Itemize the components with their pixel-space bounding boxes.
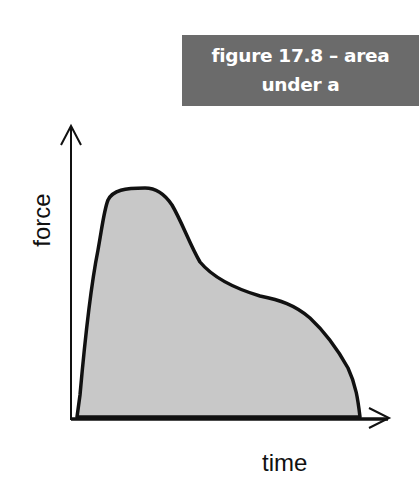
area-under-curve xyxy=(77,188,360,417)
force-time-graph xyxy=(0,0,419,489)
y-axis-label: force xyxy=(27,190,57,250)
x-axis-label: time xyxy=(262,448,307,478)
